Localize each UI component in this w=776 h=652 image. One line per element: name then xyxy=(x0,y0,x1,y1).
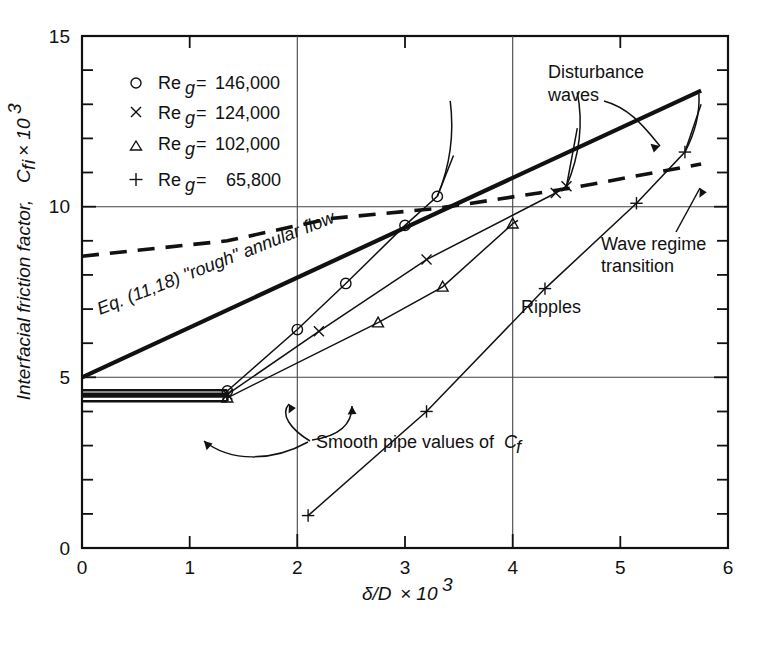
y-axis-title-symbol: C xyxy=(13,169,34,183)
y-axis-title: Interfacial friction factor, C f i × 10 … xyxy=(4,103,39,400)
smooth-pipe-text: Smooth pipe values of xyxy=(316,432,495,452)
x-tick-label: 1 xyxy=(184,557,195,578)
disturbance-waves-line2: waves xyxy=(547,85,599,105)
wave-regime-line1: Wave regime xyxy=(601,234,706,254)
figure-panel: 0 5 10 15 0 1 2 3 4 5 6 δ/D × 10 3 Inter… xyxy=(0,0,776,652)
y-tick-labels: 0 5 10 15 xyxy=(49,26,70,559)
x-tick-label: 0 xyxy=(77,557,88,578)
x-tick-label: 6 xyxy=(723,557,734,578)
legend-label-value: 124,000 xyxy=(215,103,280,123)
y-tick-label: 5 xyxy=(59,367,70,388)
x-tick-label: 3 xyxy=(400,557,411,578)
y-tick-label: 10 xyxy=(49,196,70,217)
x-axis-title-symbol: δ/D xyxy=(362,583,392,604)
x-tick-labels: 0 1 2 3 4 5 6 xyxy=(77,557,734,578)
legend-label-symbol: Re xyxy=(158,103,181,123)
legend-label-value: 146,000 xyxy=(215,73,280,93)
x-tick-label: 4 xyxy=(507,557,518,578)
disturbance-waves-line1: Disturbance xyxy=(548,62,644,82)
y-axis-title-exponent: 3 xyxy=(4,103,25,114)
ripples-label: Ripples xyxy=(521,297,581,317)
chart-svg: 0 5 10 15 0 1 2 3 4 5 6 δ/D × 10 3 Inter… xyxy=(0,0,776,652)
legend-label-symbol: Re xyxy=(158,134,181,154)
y-axis-title-subscript2: i xyxy=(18,159,39,164)
y-axis-title-tail: × 10 xyxy=(13,118,34,156)
legend-label-subscript: g xyxy=(185,175,195,195)
legend-label-symbol: Re xyxy=(158,73,181,93)
legend-label-subscript: g xyxy=(185,78,195,98)
legend-label-value: 65,800 xyxy=(226,170,281,190)
x-tick-label: 2 xyxy=(292,557,303,578)
ripples-annotation: Ripples xyxy=(521,297,581,317)
x-axis-title: δ/D × 10 3 xyxy=(362,574,453,604)
legend-label-value: 102,000 xyxy=(215,134,280,154)
y-axis-title-text: Interfacial friction factor, xyxy=(13,200,34,401)
x-axis-title-exponent: 3 xyxy=(442,574,453,595)
legend-label-equals: = xyxy=(196,134,207,154)
x-tick-label: 5 xyxy=(615,557,626,578)
legend-label-equals: = xyxy=(196,170,207,190)
legend-label-equals: = xyxy=(196,103,207,123)
y-tick-label: 0 xyxy=(59,538,70,559)
legend-label-equals: = xyxy=(196,73,207,93)
x-axis-title-tail: × 10 xyxy=(400,583,438,604)
wave-regime-line2: transition xyxy=(601,256,674,276)
legend-label-subscript: g xyxy=(185,139,195,159)
legend-label-subscript: g xyxy=(185,108,195,128)
legend-label-symbol: Re xyxy=(158,170,181,190)
y-tick-label: 15 xyxy=(49,26,70,47)
